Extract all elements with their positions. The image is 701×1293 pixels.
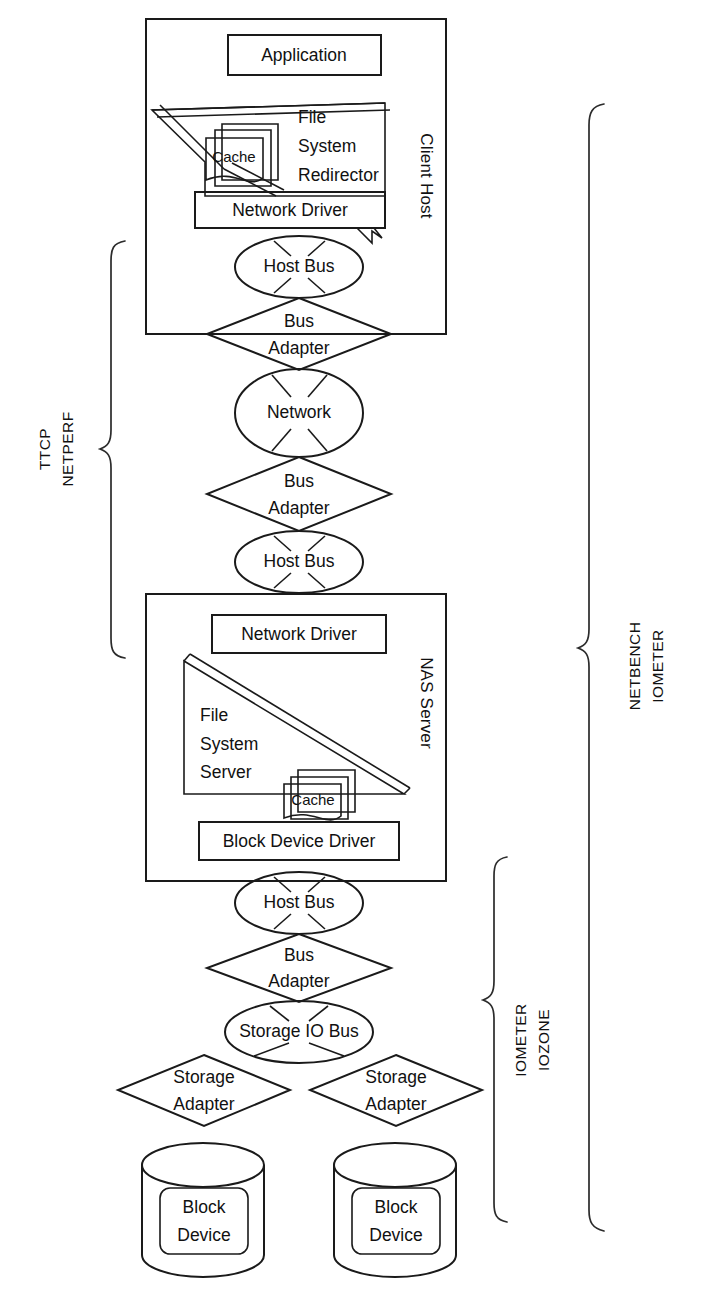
left-brace-line1: TTCP bbox=[36, 428, 53, 470]
client-host-group: Client Host Application File System Redi… bbox=[146, 19, 446, 334]
storage-bus-adapter-line1: Bus bbox=[284, 945, 314, 965]
storage-adapter-right-line2: Adapter bbox=[365, 1094, 426, 1114]
right-brace-line1: NETBENCH bbox=[626, 622, 643, 710]
block-device-left-line1: Block bbox=[183, 1197, 226, 1217]
client-host-bus-label: Host Bus bbox=[264, 256, 335, 276]
left-brace bbox=[100, 241, 125, 658]
storage-adapter-right-line1: Storage bbox=[365, 1067, 426, 1087]
client-host-label: Client Host bbox=[417, 133, 436, 218]
client-host-box bbox=[146, 19, 446, 334]
network-driver-arrow-icon bbox=[357, 228, 382, 243]
fs-server-line1: File bbox=[200, 705, 228, 725]
nas-network-driver-label: Network Driver bbox=[241, 624, 357, 644]
application-label: Application bbox=[261, 45, 347, 65]
nas-server-label: NAS Server bbox=[417, 657, 436, 749]
block-device-left-line2: Device bbox=[177, 1225, 231, 1245]
bus-adapter-top-line1: Bus bbox=[284, 311, 314, 331]
nas-server-group: NAS Server Network Driver File System Se… bbox=[146, 594, 446, 881]
storage-adapter-left-line2: Adapter bbox=[173, 1094, 234, 1114]
block-device-driver-label: Block Device Driver bbox=[223, 831, 376, 851]
fs-redirector-line1: File bbox=[298, 107, 326, 127]
storage-io-bus-label: Storage IO Bus bbox=[239, 1021, 359, 1041]
right-outer-brace bbox=[578, 104, 604, 1231]
interconnect-group: Bus Adapter Network Bus Adapter Host Bus bbox=[207, 298, 391, 593]
fs-redirector-line2: System bbox=[298, 136, 356, 156]
storage-host-bus-label: Host Bus bbox=[264, 892, 335, 912]
left-brace-line2: NETPERF bbox=[59, 411, 76, 486]
server-host-bus-top-label: Host Bus bbox=[264, 551, 335, 571]
fs-server-line2: System bbox=[200, 734, 258, 754]
inner-brace-line2: IOZONE bbox=[535, 1009, 552, 1071]
fs-redirector-line3: Redirector bbox=[298, 165, 379, 185]
bus-adapter-top-line2: Adapter bbox=[268, 338, 329, 358]
bus-adapter-bottom-line2: Adapter bbox=[268, 498, 329, 518]
inner-brace-line1: IOMETER bbox=[512, 1003, 529, 1076]
nas-stack-diagram: Client Host Application File System Redi… bbox=[0, 0, 701, 1293]
block-device-right-line2: Device bbox=[369, 1225, 423, 1245]
bus-adapter-bottom-line1: Bus bbox=[284, 471, 314, 491]
nas-cache-label: Cache bbox=[291, 791, 334, 808]
network-label: Network bbox=[267, 402, 331, 422]
storage-bus-adapter-line2: Adapter bbox=[268, 971, 329, 991]
right-brace-line2: IOMETER bbox=[649, 629, 666, 702]
client-network-driver-label: Network Driver bbox=[232, 200, 348, 220]
bus-adapter-bottom-diamond bbox=[207, 457, 391, 531]
diagram-canvas: Client Host Application File System Redi… bbox=[0, 0, 701, 1293]
storage-adapter-left-line1: Storage bbox=[173, 1067, 234, 1087]
storage-group: Host Bus Bus Adapter Storage IO Bus Stor… bbox=[118, 872, 482, 1277]
block-device-right-line1: Block bbox=[375, 1197, 418, 1217]
fs-server-line3: Server bbox=[200, 762, 252, 782]
inner-right-brace bbox=[483, 857, 507, 1222]
client-cache-label: Cache bbox=[212, 148, 255, 165]
